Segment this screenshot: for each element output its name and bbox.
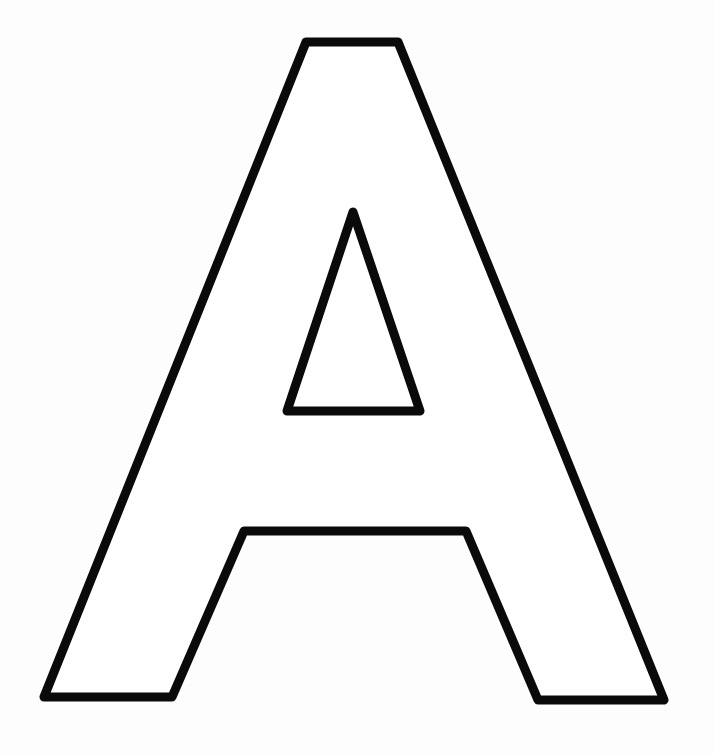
coloring-page-canvas: A xyxy=(0,0,714,755)
letter-a-outline xyxy=(0,0,714,755)
